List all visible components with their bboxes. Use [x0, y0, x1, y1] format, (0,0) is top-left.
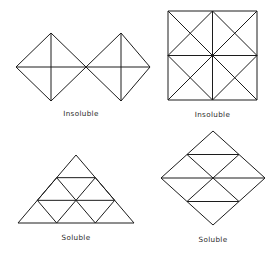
caption-diamond-grid: Soluble [157, 236, 269, 243]
quad-square-drawing [163, 6, 262, 105]
triangle-right-lean-a [95, 178, 114, 201]
figure-plate: Insoluble Insoluble [0, 0, 271, 253]
triangle-grid-drawing [12, 152, 140, 228]
figure-double-diamond [10, 30, 153, 104]
figure-triangle-grid [12, 152, 140, 228]
diamond-grid-drawing [157, 127, 269, 229]
caption-quad-square: Insoluble [163, 111, 262, 118]
figure-quad-square [163, 6, 262, 105]
triangle-left-lean-c [95, 200, 114, 223]
outer-triangle-outline [18, 155, 134, 223]
figure-diamond-grid [157, 127, 269, 229]
triangle-left-lean-a [37, 178, 56, 201]
caption-double-diamond: Insoluble [8, 110, 154, 117]
caption-triangle-grid: Soluble [10, 234, 142, 241]
triangle-right-lean-c [37, 200, 56, 223]
double-diamond-drawing [10, 30, 153, 104]
